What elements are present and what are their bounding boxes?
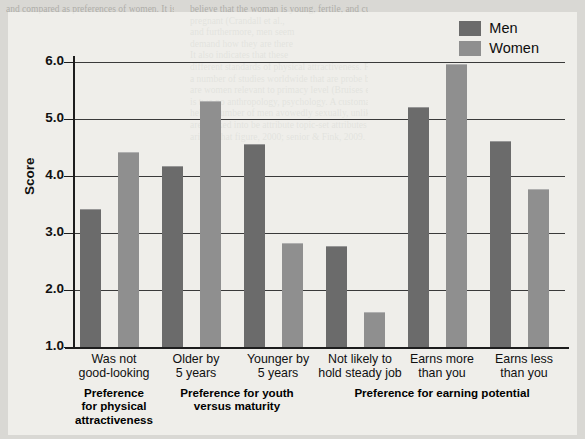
bar-women [528,189,549,347]
y-axis-tick [64,119,73,120]
legend-swatch-women [459,41,481,56]
legend-label-women: Women [489,40,539,56]
bar-group [155,62,237,347]
bar-women [282,243,303,347]
bar-men [408,107,429,347]
x-axis-label-line: than you [471,367,577,381]
legend-item-men: Men [459,20,539,36]
y-axis-tick [64,62,73,63]
gridline [73,62,565,63]
bar-women [364,312,385,347]
legend-swatch-men [459,21,481,36]
bar-men [244,144,265,347]
gridline [73,119,565,120]
section-heading-line: attractiveness [59,413,169,426]
bar-women [446,64,467,347]
y-axis-tick [64,233,73,234]
bar-men [326,246,347,347]
y-axis-tick-label: 4.0 [24,167,64,182]
y-axis-tick [64,290,73,291]
bar-men [162,166,183,347]
bar-chart-figure: Men Women Score 6.05.04.03.02.01.0 Was n… [8,12,577,435]
y-axis-line [73,56,75,349]
x-axis-label: Earns lessthan you [471,353,577,380]
x-axis-line [65,347,569,349]
x-axis-label-line: Earns less [471,353,577,367]
legend-item-women: Women [459,40,539,56]
bar-group [237,62,319,347]
section-heading: Preference for earning potential [305,386,579,399]
y-axis-tick [64,347,73,348]
plot-area [73,62,565,347]
section-heading-line: Preference for earning potential [305,386,579,399]
y-axis-tick-label: 6.0 [24,53,64,68]
y-axis-tick-label: 3.0 [24,224,64,239]
bar-men [490,141,511,347]
bar-group [401,62,483,347]
bar-men [80,209,101,347]
bar-women [200,101,221,347]
bar-women [118,152,139,347]
bar-group [319,62,401,347]
y-axis-tick-label: 2.0 [24,281,64,296]
y-axis-tick [64,176,73,177]
legend-label-men: Men [489,20,517,36]
y-axis-tick-label: 1.0 [24,338,64,353]
y-axis-tick-label: 5.0 [24,110,64,125]
bar-group [73,62,155,347]
section-heading-line: versus maturity [141,399,333,412]
bar-group [483,62,565,347]
chart-legend: Men Women [459,20,539,60]
